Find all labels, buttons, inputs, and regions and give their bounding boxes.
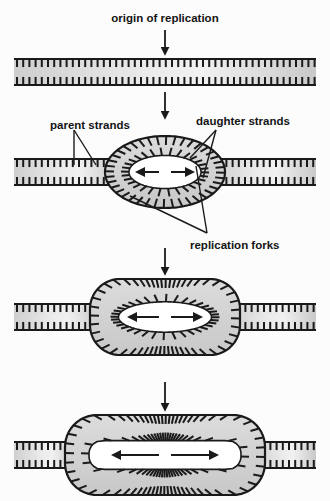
- template-base-tick: [83, 463, 91, 464]
- daughter-base-tick: [160, 486, 161, 495]
- daughter-base-tick: [215, 177, 224, 178]
- daughter-base-tick: [256, 466, 265, 467]
- template-base-tick: [85, 444, 93, 445]
- daughter-base-tick: [231, 326, 240, 327]
- daughter-base-tick: [256, 447, 265, 448]
- figure-canvas: origin of replication parent strands dau…: [0, 0, 330, 501]
- daughter-base-tick: [231, 309, 240, 310]
- template-base-tick: [113, 322, 121, 323]
- daughter-base-tick: [167, 486, 168, 495]
- stage4-opening: [89, 441, 241, 470]
- daughter-base-tick: [160, 346, 161, 355]
- daughter-base-tick: [65, 462, 74, 463]
- label-replication-forks: replication forks: [190, 239, 279, 251]
- template-base-tick: [168, 189, 169, 197]
- daughter-base-tick: [169, 415, 170, 424]
- label-parent-strands: parent strands: [50, 119, 130, 131]
- template-base-tick: [114, 311, 122, 312]
- label-daughter-strands: daughter strands: [196, 115, 290, 127]
- stage3-right-duplex-band: [230, 304, 316, 330]
- daughter-base-tick: [90, 324, 99, 325]
- label-origin-of-replication: origin of replication: [111, 12, 218, 24]
- template-base-tick: [111, 314, 119, 315]
- template-base-tick: [163, 433, 164, 441]
- template-base-tick: [209, 311, 217, 312]
- daughter-base-tick: [65, 443, 74, 444]
- template-base-tick: [166, 469, 167, 477]
- template-base-tick: [238, 465, 246, 466]
- daughter-base-tick: [162, 415, 163, 424]
- stage3-left-duplex-band: [14, 304, 100, 330]
- daughter-base-tick: [169, 279, 170, 288]
- template-base-tick: [161, 148, 162, 156]
- template-base-tick: [200, 168, 208, 169]
- stage-1-duplex: [14, 59, 316, 85]
- daughter-base-tick: [215, 167, 224, 168]
- template-base-tick: [162, 469, 163, 477]
- template-base-tick: [167, 433, 168, 441]
- template-base-tick: [206, 308, 214, 309]
- template-base-tick: [122, 167, 130, 168]
- template-base-tick: [239, 447, 247, 448]
- daughter-base-tick: [161, 279, 162, 288]
- template-base-tick: [122, 175, 130, 176]
- template-base-tick: [211, 320, 219, 321]
- template-base-tick: [208, 322, 216, 323]
- daughter-base-tick: [90, 306, 99, 307]
- template-base-tick: [116, 324, 124, 325]
- daughter-base-tick: [168, 346, 169, 355]
- daughter-base-tick: [106, 166, 115, 167]
- daughter-base-tick: [106, 176, 115, 177]
- dna-replication-diagram: origin of replication parent strands dau…: [0, 0, 330, 501]
